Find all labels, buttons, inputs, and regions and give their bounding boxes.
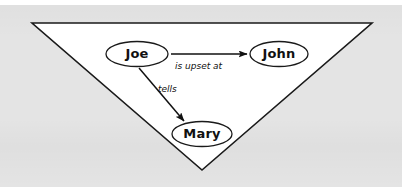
edge-label-is-upset-at: is upset at (175, 61, 222, 71)
diagram-canvas (0, 0, 402, 196)
edge-label-tells: tells (158, 84, 177, 94)
inverted-triangle-shape (32, 23, 372, 170)
diagram-figure: Joe John Mary is upset at tells (0, 0, 402, 196)
node-label-john: John (250, 45, 308, 63)
node-label-mary: Mary (172, 125, 232, 143)
node-label-joe: Joe (106, 45, 168, 63)
